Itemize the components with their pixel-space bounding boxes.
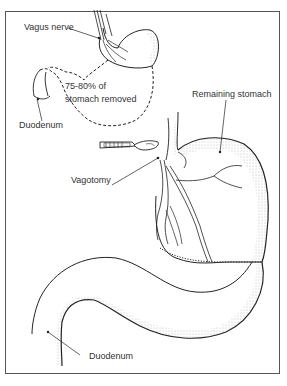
duodenum (32, 257, 263, 366)
leader-duodenum-top (37, 99, 42, 121)
gastrectomy-illustration (0, 0, 287, 386)
label-duodenum-bottom: Duodenum (89, 351, 133, 362)
label-removed-line1: 75-80% of (65, 81, 106, 92)
label-remaining-stomach: Remaining stomach (192, 89, 272, 100)
leader-vagotomy (112, 158, 158, 185)
label-vagus-nerve: Vagus nerve (24, 22, 74, 33)
remaining-stomach (156, 112, 269, 263)
label-duodenum-top: Duodenum (19, 120, 63, 131)
label-removed-line2: stomach removed (65, 94, 137, 105)
label-vagotomy: Vagotomy (71, 175, 111, 186)
leader-duodenum-bottom (48, 332, 80, 355)
surgical-instrument (100, 141, 158, 150)
